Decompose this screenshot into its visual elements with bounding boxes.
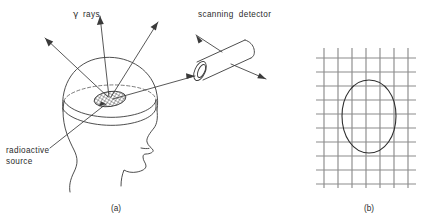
gamma-ray-arrows — [45, 16, 195, 99]
panel-b-caption: (b) — [364, 204, 374, 213]
head-profile-outline — [63, 57, 158, 192]
panel-a-caption: (a) — [111, 204, 121, 213]
gamma-symbol-label: γ — [73, 9, 79, 19]
scanning-detector — [191, 35, 266, 82]
panel-b: (b) — [316, 48, 416, 213]
scanning-detector-label: scanning detector — [198, 10, 271, 19]
figure-root: γ rays scanning detector radioactive sou… — [0, 0, 429, 219]
panel-a: γ rays scanning detector radioactive sou… — [6, 9, 271, 213]
figure-svg: γ rays scanning detector radioactive sou… — [0, 0, 429, 219]
radioactive-source-label-line1: radioactive — [6, 146, 50, 155]
hatched-source-ellipse — [93, 89, 127, 108]
scan-grid — [316, 48, 416, 188]
gamma-rays-label: rays — [83, 10, 100, 19]
radioactive-source-label-line2: source — [6, 157, 33, 166]
